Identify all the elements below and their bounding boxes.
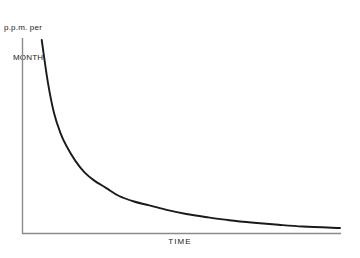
plot-area: [0, 0, 360, 258]
decay-curve-line: [42, 40, 340, 228]
x-axis-label: TIME: [0, 237, 360, 246]
chart-figure: p.p.m. per MONTH TIME: [0, 0, 360, 258]
